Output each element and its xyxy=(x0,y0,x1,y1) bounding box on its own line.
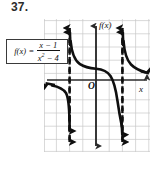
equation-callout-box: f(x) = x − 1 x2 − 4 xyxy=(6,39,68,64)
equation-fraction: x − 1 x2 − 4 xyxy=(37,41,60,62)
equation-left-hand-side: f(x) xyxy=(14,47,26,56)
curve-right-branch-up-arrow xyxy=(123,32,124,46)
equation-denominator-rest: − 4 xyxy=(45,52,59,62)
problem-number: 37. xyxy=(11,0,28,14)
equation-denominator: x2 − 4 xyxy=(37,52,60,62)
x-axis-label: x xyxy=(139,85,143,94)
curve-left-branch-left-arrow xyxy=(46,83,56,85)
origin-label: O xyxy=(88,82,95,92)
graph-figure: 37. xyxy=(0,0,150,181)
equation-equals-sign: = xyxy=(29,47,34,56)
y-axis-label: f(x) xyxy=(99,21,112,30)
curve-right-branch-right-arrow xyxy=(141,71,149,73)
curve-middle-branch-down-arrow xyxy=(122,122,123,135)
equation-numerator: x − 1 xyxy=(38,41,58,50)
curve-middle-branch-up-arrow xyxy=(70,32,71,46)
equation-expression: f(x) = x − 1 x2 − 4 xyxy=(14,41,60,62)
